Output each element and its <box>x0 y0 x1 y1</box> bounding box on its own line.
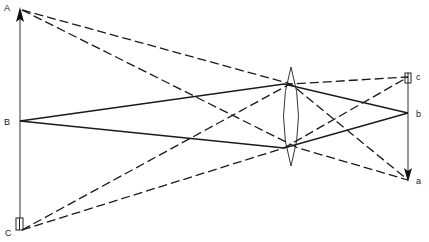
label-a: a <box>416 176 421 186</box>
label-B: B <box>4 117 10 127</box>
rays-from-A <box>22 10 408 180</box>
label-c: c <box>416 72 421 82</box>
convex-lens <box>284 67 299 166</box>
image-arrow <box>404 73 412 182</box>
rays-from-B <box>20 84 408 148</box>
object-arrow <box>16 7 24 230</box>
label-b: b <box>416 109 421 119</box>
label-A: A <box>4 3 10 13</box>
lens-ray-diagram: A B C c b a <box>0 0 429 242</box>
label-C: C <box>5 228 12 238</box>
